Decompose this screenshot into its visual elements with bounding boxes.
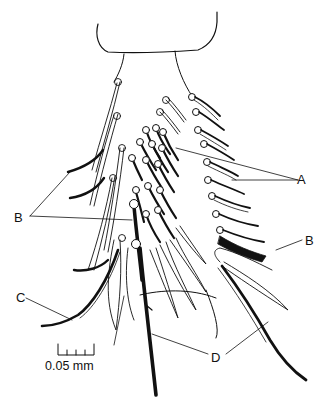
left-dark-setae: [68, 150, 108, 271]
label-a: A: [297, 172, 306, 187]
appendage-left-edge: [114, 54, 124, 82]
right-row-setae: [189, 94, 267, 263]
scale-bar: [58, 344, 94, 355]
seta-d-central: [140, 248, 156, 395]
seta-d-right: [222, 266, 306, 380]
basal-segment-outline: [97, 12, 217, 53]
appendage-lower-right-edge: [206, 290, 217, 338]
setae-diagram: A B B C D 0.05 mm: [0, 0, 336, 406]
label-d: D: [211, 350, 220, 365]
label-c: C: [16, 290, 25, 305]
appendage-right-edge: [175, 51, 192, 96]
central-dark-setae: [129, 125, 179, 281]
upper-outline-setae: [157, 97, 187, 135]
appendage-base-line: [140, 291, 216, 298]
scale-bar-label: 0.05 mm: [45, 359, 94, 373]
left-outline-setae: [88, 79, 134, 331]
label-b-left: B: [14, 210, 23, 225]
label-b-right: B: [305, 233, 314, 248]
